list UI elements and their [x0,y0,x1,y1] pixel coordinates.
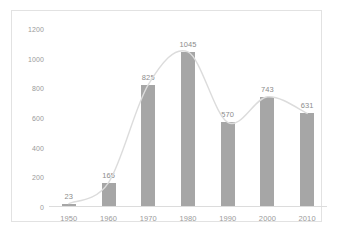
bar-value-label: 23 [65,192,74,201]
chart-frame: 120010008006004002000 231950165196082519… [11,10,322,222]
bar-value-label: 743 [261,85,274,94]
y-axis-tick-label: 1000 [28,55,44,62]
bar-group: 7432000 [248,29,288,207]
bar-group: 6312010 [287,29,327,207]
y-axis-tick-label: 1200 [28,26,44,33]
bar[interactable] [181,52,195,207]
x-axis-tick-label: 1960 [100,214,117,223]
bar-value-label: 1045 [179,40,196,49]
bar[interactable] [102,183,116,207]
bar-value-label: 631 [301,101,314,110]
bar-group: 1651960 [89,29,129,207]
bar-group: 231950 [49,29,89,207]
x-axis-line [49,206,327,207]
x-axis-tick-label: 1980 [179,214,196,223]
bar-value-label: 825 [142,73,155,82]
y-axis-tick-label: 200 [32,174,44,181]
bar-group: 5701990 [208,29,248,207]
x-axis-tick-label: 2010 [299,214,316,223]
x-axis-tick-label: 2000 [259,214,276,223]
bar[interactable] [300,113,314,207]
x-axis-tick-label: 1990 [219,214,236,223]
plot-area: 120010008006004002000 231950165196082519… [49,29,327,207]
bar[interactable] [221,122,235,207]
x-axis-tick-label: 1970 [140,214,157,223]
bar[interactable] [141,85,155,207]
bar-group: 10451980 [168,29,208,207]
y-axis-tick-label: 800 [32,85,44,92]
y-axis-tick-label: 0 [40,204,44,211]
bar-value-label: 165 [102,171,115,180]
x-axis-tick-label: 1950 [60,214,77,223]
bar-value-label: 570 [221,110,234,119]
y-axis-tick-label: 400 [32,144,44,151]
bar[interactable] [260,97,274,207]
bars-layer: 2319501651960825197010451980570199074320… [49,29,327,207]
y-axis-tick-label: 600 [32,115,44,122]
bar-group: 8251970 [128,29,168,207]
